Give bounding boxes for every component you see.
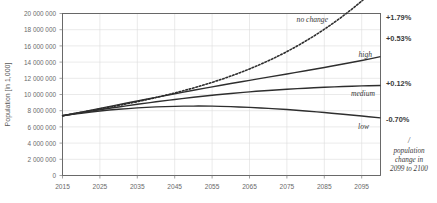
x-tick-label: 2015 (55, 183, 70, 190)
x-tick-label: 2065 (242, 183, 257, 190)
x-tick-label: 2025 (93, 183, 108, 190)
rate-note-line-1: / (407, 137, 411, 145)
rate-label-low: -0.70% (386, 115, 410, 124)
y-axis-tick-labels: 20 000 000 18 000 000 16 000 000 14 000 … (24, 10, 56, 179)
y-tick-label: 14 000 000 (24, 59, 56, 66)
y-tick-label: 0 (52, 172, 56, 179)
x-tick-label: 2075 (280, 183, 295, 190)
chart-svg: Population [in 1,000] 20 000 000 18 000 … (0, 0, 437, 203)
rate-label-high: +0.53% (386, 34, 412, 43)
rate-note: / population change in 2099 to 2100 (390, 137, 428, 173)
y-tick-label: 16 000 000 (24, 43, 56, 50)
y-tick-label: 18 000 000 (24, 26, 56, 33)
y-tick-label: 10 000 000 (24, 91, 56, 98)
y-tick-label: 4 000 000 (28, 140, 57, 147)
y-axis-title: Population [in 1,000] (4, 63, 12, 127)
y-tick-label: 2 000 000 (28, 156, 57, 163)
series-label-medium: medium (351, 89, 376, 98)
population-projection-chart: Population [in 1,000] 20 000 000 18 000 … (0, 0, 437, 203)
series-label-high: high (358, 50, 372, 59)
series-label-no-change: no change (297, 15, 329, 24)
series-label-low: low (358, 122, 370, 131)
y-tick-label: 6 000 000 (28, 124, 57, 131)
rate-note-line-4: 2099 to 2100 (390, 165, 428, 173)
x-tick-label: 2045 (167, 183, 182, 190)
y-tick-label: 12 000 000 (24, 75, 56, 82)
rate-note-line-2: population (392, 147, 425, 155)
y-tick-label: 20 000 000 (24, 10, 56, 17)
rate-label-medium: +0.12% (386, 79, 412, 88)
x-axis-tick-labels: 2015 2025 2035 2045 2055 2065 2075 2085 … (55, 183, 369, 190)
rate-note-line-3: change in (395, 156, 424, 164)
x-tick-label: 2055 (205, 183, 220, 190)
x-tick-label: 2085 (317, 183, 332, 190)
rate-label-no-change: +1.79% (386, 13, 412, 22)
y-tick-label: 8 000 000 (28, 107, 57, 114)
x-tick-label: 2095 (354, 183, 369, 190)
x-tick-label: 2035 (130, 183, 145, 190)
